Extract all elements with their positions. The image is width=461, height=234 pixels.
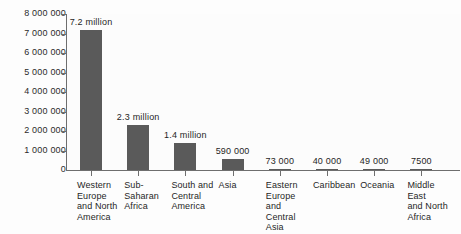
- x-axis-category-label: Caribbean: [313, 180, 359, 191]
- y-axis-line: [66, 14, 67, 170]
- y-axis-tick-label: 8 000 000: [4, 9, 66, 18]
- bar: 590 000: [222, 159, 244, 171]
- x-axis-tick-mark: [185, 171, 186, 176]
- x-axis-category-line: Europe: [77, 191, 123, 202]
- x-axis-tick-mark: [374, 171, 375, 176]
- x-axis-category-line: Eastern: [266, 180, 312, 191]
- y-axis-tick-label: 5 000 000: [4, 68, 66, 77]
- bar-value-label: 590 000: [216, 146, 250, 156]
- x-axis-tick-mark: [91, 171, 92, 176]
- bar-group: 590 000: [222, 14, 244, 170]
- x-axis-category-line: South and: [171, 180, 217, 191]
- x-axis-category-line: Africa: [407, 212, 453, 223]
- x-axis-category-line: Middle East: [407, 180, 453, 201]
- x-axis-tick-mark: [233, 171, 234, 176]
- y-axis-tick-label: 1 000 000: [4, 146, 66, 155]
- bar: 73 000: [269, 169, 291, 171]
- y-axis-tick-mark: [61, 34, 66, 35]
- x-axis-category-line: America: [77, 212, 123, 223]
- bar-group: 73 000: [269, 14, 291, 170]
- x-axis-category-label: Oceania: [360, 180, 406, 191]
- bar-value-label: 2.3 million: [117, 112, 160, 122]
- x-axis-line: [66, 170, 460, 171]
- y-axis-tick-label: 7 000 000: [4, 29, 66, 38]
- x-axis-category-label: Middle Eastand NorthAfrica: [407, 180, 453, 222]
- bar: 1.4 million: [174, 143, 196, 170]
- x-axis-tick-mark: [421, 171, 422, 176]
- y-axis-tick-mark: [61, 112, 66, 113]
- x-axis-category-line: America: [171, 201, 217, 212]
- bar-group: 2.3 million: [127, 14, 149, 170]
- y-axis-tick-label: 0: [4, 165, 66, 174]
- bar-value-label: 1.4 million: [164, 130, 207, 140]
- y-axis-tick-label: 4 000 000: [4, 87, 66, 96]
- x-axis-category-line: Sub-: [124, 180, 170, 191]
- x-axis-tick-mark: [138, 171, 139, 176]
- x-axis-category-line: and North: [407, 201, 453, 212]
- x-axis-category-line: Europe: [266, 191, 312, 202]
- x-axis-category-label: Sub-SaharanAfrica: [124, 180, 170, 212]
- y-axis-tick-label: 2 000 000: [4, 126, 66, 135]
- x-axis-tick-mark: [327, 171, 328, 176]
- y-axis-tick-mark: [61, 92, 66, 93]
- bar-group: 7500: [410, 14, 432, 170]
- x-axis-tick-mark: [280, 171, 281, 176]
- bar: 49 000: [363, 169, 385, 171]
- bar: 7500: [410, 169, 432, 171]
- bar-chart: 01 000 0002 000 0003 000 0004 000 0005 0…: [0, 0, 461, 234]
- bar-value-label: 7500: [411, 156, 432, 166]
- bar: 7.2 million: [80, 30, 102, 170]
- bar: 2.3 million: [127, 125, 149, 170]
- y-axis-tick-mark: [61, 53, 66, 54]
- bar-group: 40 000: [316, 14, 338, 170]
- x-axis-category-label: EasternEuropeandCentral Asia: [266, 180, 312, 233]
- x-axis-category-line: Western: [77, 180, 123, 191]
- x-axis-category-line: Africa: [124, 201, 170, 212]
- bar-value-label: 7.2 million: [70, 17, 113, 27]
- bar-group: 7.2 million: [80, 14, 102, 170]
- x-axis-category-line: Central: [171, 191, 217, 202]
- y-axis-tick-label: 3 000 000: [4, 107, 66, 116]
- bar-group: 49 000: [363, 14, 385, 170]
- y-axis-tick-mark: [61, 131, 66, 132]
- x-axis-category-line: Caribbean: [313, 180, 359, 191]
- x-axis-category-line: Oceania: [360, 180, 406, 191]
- x-axis-category-line: Central Asia: [266, 212, 312, 233]
- y-axis-tick-mark: [61, 14, 66, 15]
- y-axis-tick-mark: [61, 151, 66, 152]
- y-axis-tick-label: 6 000 000: [4, 48, 66, 57]
- x-axis-category-label: South andCentralAmerica: [171, 180, 217, 212]
- plot-area: [67, 14, 460, 170]
- x-axis-category-line: and: [266, 201, 312, 212]
- bar-value-label: 40 000: [313, 156, 342, 166]
- x-axis-category-line: Asia: [219, 180, 265, 191]
- x-axis-category-line: and North: [77, 201, 123, 212]
- x-axis-category-line: Saharan: [124, 191, 170, 202]
- bar: 40 000: [316, 169, 338, 171]
- bar-value-label: 49 000: [360, 156, 389, 166]
- x-axis-category-label: WesternEuropeand NorthAmerica: [77, 180, 123, 222]
- y-axis-tick-mark: [61, 73, 66, 74]
- bar-value-label: 73 000: [265, 156, 294, 166]
- y-axis-ticks: 01 000 0002 000 0003 000 0004 000 0005 0…: [0, 0, 66, 234]
- x-axis-category-label: Asia: [219, 180, 265, 191]
- bar-group: 1.4 million: [174, 14, 196, 170]
